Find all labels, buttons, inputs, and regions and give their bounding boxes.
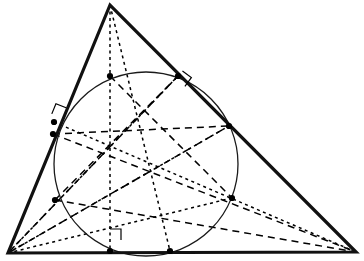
incircle-layer <box>54 72 238 256</box>
tangent-point-top-left <box>107 73 113 79</box>
point-left-circle <box>52 197 58 203</box>
geometry-figure <box>0 0 364 261</box>
incircle <box>54 72 238 256</box>
foot-point-base-right <box>167 248 173 254</box>
point-left-upper <box>51 119 57 125</box>
point-right-circle <box>229 195 235 201</box>
right-angle-base <box>110 229 121 240</box>
geometry-canvas <box>0 0 364 261</box>
tangent-point-right-side <box>226 123 232 129</box>
dashed-cevian-layer <box>8 76 356 253</box>
point-left-lower <box>50 131 56 137</box>
triangle-outline <box>8 5 356 253</box>
cevian-left-upper-to-c <box>54 122 356 252</box>
tangent-point-top-right <box>175 73 181 79</box>
triangle-layer <box>8 5 356 253</box>
foot-point-base-left <box>107 248 113 254</box>
